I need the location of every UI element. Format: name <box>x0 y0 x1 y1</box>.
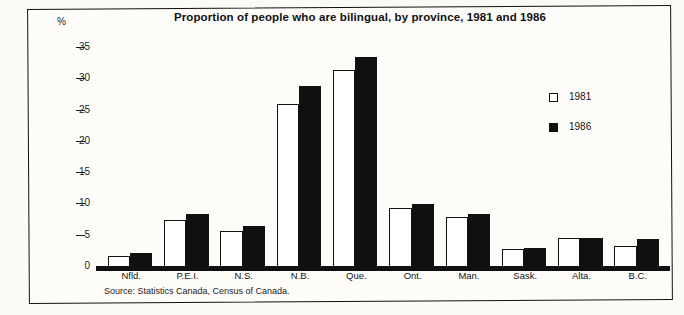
bar-sask-1981 <box>502 249 524 267</box>
bar-alta-1986 <box>580 238 602 267</box>
legend-item-1986: 1986 <box>549 121 649 151</box>
bar-ns-1986 <box>243 226 265 267</box>
bar-nfld-1986 <box>130 253 152 267</box>
bar-nb-1986 <box>299 86 321 267</box>
bar-bc-1986 <box>637 239 659 267</box>
chart-figure: Proportion of people who are bilingual, … <box>0 0 684 315</box>
x-axis-label-que: Que. <box>328 270 384 281</box>
bar-nb-1981 <box>277 104 299 267</box>
bar-ont-1981 <box>389 208 411 267</box>
x-axis-label-alta: Alta. <box>553 270 609 281</box>
x-axis-label-ns: N.S. <box>216 270 272 281</box>
legend-label: 1981 <box>569 91 591 102</box>
bar-pei-1981 <box>164 220 186 267</box>
legend-item-1981: 1981 <box>549 91 649 121</box>
bar-bc-1981 <box>614 246 636 267</box>
x-axis-label-man: Man. <box>441 270 497 281</box>
legend-swatch-icon <box>549 93 558 102</box>
bar-man-1981 <box>446 217 468 267</box>
source-note: Source: Statistics Canada, Census of Can… <box>104 286 290 296</box>
bar-alta-1981 <box>558 238 580 267</box>
legend: 19811986 <box>549 91 649 151</box>
x-axis-label-ont: Ont. <box>385 270 441 281</box>
x-axis-label-sask: Sask. <box>497 270 553 281</box>
bar-sask-1986 <box>524 248 546 267</box>
legend-swatch-icon <box>549 123 558 132</box>
bar-ns-1981 <box>220 231 242 267</box>
bar-que-1986 <box>355 57 377 267</box>
legend-label: 1986 <box>569 121 591 132</box>
x-axis-label-nb: N.B. <box>272 270 328 281</box>
bar-que-1981 <box>333 70 355 267</box>
x-axis-label-bc: B.C. <box>610 270 666 281</box>
x-axis-label-nfld: Nfld. <box>103 270 159 281</box>
bar-man-1986 <box>468 214 490 267</box>
bar-ont-1986 <box>412 204 434 267</box>
x-axis-label-pei: P.E.I. <box>159 270 215 281</box>
bar-pei-1986 <box>186 214 208 267</box>
plot-area: Proportion of people who are bilingual, … <box>0 0 684 315</box>
